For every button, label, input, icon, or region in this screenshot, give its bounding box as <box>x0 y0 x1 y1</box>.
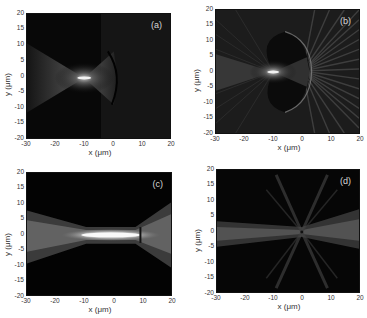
ytick: 10 <box>200 196 214 203</box>
ytick: 0 <box>10 72 24 79</box>
ytick: 5 <box>200 211 214 218</box>
ytick: 15 <box>200 180 214 187</box>
ytick: 10 <box>10 40 24 47</box>
xtick: -30 <box>207 135 223 142</box>
panel-label-d: (d) <box>340 176 351 186</box>
ytick: -5 <box>10 245 24 252</box>
field-image-b <box>216 10 359 133</box>
x-axis-label: x (μm) <box>70 148 130 157</box>
ytick: 20 <box>199 5 213 12</box>
heatmap-a: (a) <box>26 13 171 139</box>
field-image-c <box>27 173 171 295</box>
x-axis-label: x (μm) <box>70 305 130 314</box>
ytick: 10 <box>10 199 24 206</box>
ytick: -5 <box>10 87 24 94</box>
xtick: 0 <box>106 297 122 304</box>
panel-label-b: (b) <box>340 16 351 26</box>
heatmap-d: (d) <box>216 169 360 293</box>
y-axis-label: y (μm) <box>3 233 12 256</box>
xtick: 20 <box>164 297 180 304</box>
xtick: -20 <box>236 135 252 142</box>
ytick: -5 <box>200 242 214 249</box>
ytick: -15 <box>199 113 213 120</box>
field-image-d <box>217 170 359 292</box>
ytick: 5 <box>199 51 213 58</box>
xtick: -10 <box>76 140 92 147</box>
xtick: 10 <box>323 135 339 142</box>
xtick: 20 <box>352 294 367 301</box>
panel-label-c: (c) <box>153 179 164 189</box>
ytick: 5 <box>10 56 24 63</box>
y-axis-label: y (μm) <box>3 73 12 96</box>
xtick: -20 <box>237 294 253 301</box>
ytick: -15 <box>200 273 214 280</box>
ytick: -5 <box>199 82 213 89</box>
ytick: -10 <box>199 98 213 105</box>
x-axis-label: x (μm) <box>259 143 319 152</box>
ytick: -15 <box>10 276 24 283</box>
xtick: 20 <box>352 135 367 142</box>
x-axis-label: x (μm) <box>259 302 319 311</box>
ytick: -10 <box>10 261 24 268</box>
xtick: -10 <box>265 135 281 142</box>
ytick: -15 <box>10 118 24 125</box>
xtick: -30 <box>208 294 224 301</box>
panel-label-a: (a) <box>151 20 162 30</box>
xtick: 0 <box>105 140 121 147</box>
ytick: -10 <box>200 258 214 265</box>
ytick: 0 <box>199 67 213 74</box>
y-axis-label: y (μm) <box>192 69 201 92</box>
ytick: 15 <box>10 183 24 190</box>
ytick: 0 <box>10 230 24 237</box>
xtick: -30 <box>18 140 34 147</box>
ytick: 20 <box>10 168 24 175</box>
ytick: 5 <box>10 214 24 221</box>
ytick: 0 <box>200 227 214 234</box>
y-axis-label: y (μm) <box>193 229 202 252</box>
xtick: 10 <box>135 297 151 304</box>
xtick: 10 <box>134 140 150 147</box>
xtick: 10 <box>323 294 339 301</box>
xtick: -20 <box>47 297 63 304</box>
xtick: -10 <box>265 294 281 301</box>
heatmap-c: (c) <box>26 172 172 296</box>
ytick: 10 <box>199 36 213 43</box>
field-image-a <box>27 14 170 138</box>
xtick: -10 <box>76 297 92 304</box>
ytick: -10 <box>10 103 24 110</box>
xtick: 0 <box>294 294 310 301</box>
ytick: 15 <box>10 24 24 31</box>
xtick: -30 <box>18 297 34 304</box>
xtick: -20 <box>47 140 63 147</box>
xtick: 20 <box>163 140 179 147</box>
ytick: 20 <box>200 165 214 172</box>
ytick: 15 <box>199 20 213 27</box>
heatmap-b: (b) <box>215 9 360 134</box>
ytick: 20 <box>10 9 24 16</box>
xtick: 0 <box>294 135 310 142</box>
